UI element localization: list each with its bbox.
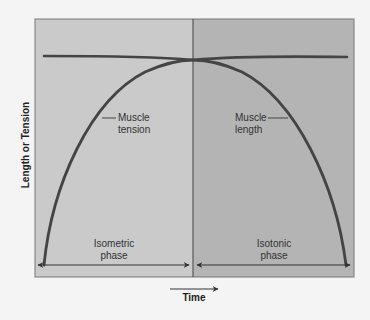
muscle-length-label-line1: Muscle [235, 112, 267, 124]
muscle-tension-label-line1: Muscle [118, 112, 150, 124]
isometric-phase-label-line2: phase [84, 250, 144, 262]
muscle-contraction-diagram: Muscle tension Muscle length Isometric p… [0, 0, 370, 320]
isometric-phase-label: Isometric phase [84, 238, 144, 262]
isotonic-phase-label-line1: Isotonic [244, 238, 304, 250]
y-axis-label: Length or Tension [20, 102, 31, 188]
isotonic-phase-label: Isotonic phase [244, 238, 304, 262]
isometric-phase-label-line1: Isometric [84, 238, 144, 250]
muscle-length-label: Muscle length [235, 112, 267, 136]
x-axis-label: Time [182, 292, 205, 303]
muscle-tension-label-line2: tension [118, 124, 150, 136]
muscle-length-label-line2: length [235, 124, 267, 136]
muscle-tension-label: Muscle tension [118, 112, 150, 136]
isotonic-phase-label-line2: phase [244, 250, 304, 262]
diagram-canvas [0, 0, 370, 320]
